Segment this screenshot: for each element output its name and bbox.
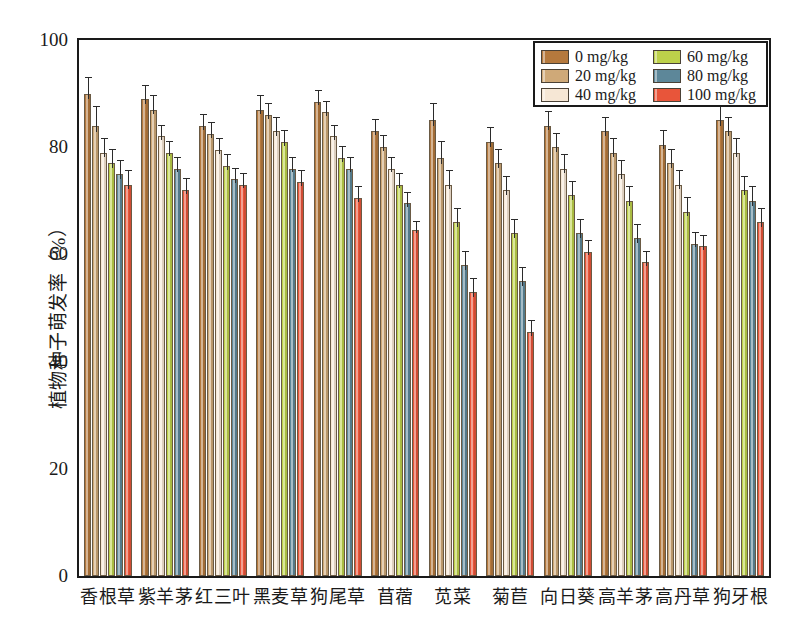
error-bar-cap [495, 149, 502, 150]
bar-shadow [663, 146, 665, 575]
legend-item[interactable]: 100 mg/kg [653, 85, 756, 104]
bar-shadow [523, 282, 525, 575]
bar-group [252, 40, 310, 576]
bar [141, 99, 148, 576]
bar [273, 131, 280, 576]
error-bar-cap [519, 267, 526, 268]
error-bar-cap [446, 170, 453, 171]
bar-shadow [679, 186, 681, 575]
legend-item[interactable]: 20 mg/kg [541, 66, 636, 85]
error-bar [613, 139, 614, 157]
bar-shadow [162, 137, 164, 575]
bar-group [79, 40, 137, 576]
bar [527, 332, 534, 576]
bar-shadow [392, 170, 394, 575]
bar-shadow [235, 180, 237, 575]
bar [461, 265, 468, 576]
bar [634, 238, 641, 576]
bar-shadow [704, 247, 706, 575]
error-bar [318, 91, 319, 105]
error-bar-cap [725, 117, 732, 118]
error-bar-cap [396, 173, 403, 174]
error-bar-cap [380, 135, 387, 136]
bar [158, 136, 165, 576]
bar [396, 185, 403, 576]
legend-item[interactable]: 80 mg/kg [653, 66, 756, 85]
error-bar-cap [758, 208, 765, 209]
y-tick-label: 20 [8, 459, 68, 478]
bar-group [539, 40, 597, 576]
bar [256, 110, 263, 576]
bar-shadow [129, 186, 131, 575]
error-bar [441, 142, 442, 164]
bar-group [482, 40, 540, 576]
bar-shadow [531, 333, 533, 575]
error-bar [736, 139, 737, 157]
bar [576, 233, 583, 576]
legend-item[interactable]: 60 mg/kg [653, 47, 756, 66]
error-bar-cap [487, 127, 494, 128]
bar [667, 163, 674, 576]
bar [150, 110, 157, 576]
bar [231, 179, 238, 576]
bar-group [597, 40, 655, 576]
error-bar-cap [634, 224, 641, 225]
error-bar [433, 104, 434, 126]
error-bar [703, 236, 704, 250]
error-bar-cap [109, 149, 116, 150]
error-bar [375, 120, 376, 134]
bar-shadow [507, 191, 509, 575]
bar [380, 147, 387, 576]
error-bar [276, 118, 277, 136]
bar-shadow [457, 223, 459, 575]
error-bar-cap [150, 95, 157, 96]
error-bar-cap [430, 103, 437, 104]
y-tick-label: 40 [8, 352, 68, 371]
bar [610, 153, 617, 576]
error-bar [580, 220, 581, 238]
bar-shadow [120, 175, 122, 575]
bar-shadow [638, 239, 640, 575]
bar-shadow [359, 199, 361, 575]
error-bar [531, 321, 532, 335]
bar [215, 150, 222, 576]
error-bar [522, 268, 523, 286]
error-bar-cap [503, 176, 510, 177]
bar [469, 292, 476, 576]
bar-shadow [342, 159, 344, 575]
legend-item[interactable]: 0 mg/kg [541, 47, 636, 66]
bar-shadow [646, 263, 648, 575]
error-bar [243, 174, 244, 188]
bar [453, 222, 460, 576]
legend-item[interactable]: 40 mg/kg [541, 85, 636, 104]
error-bar [227, 155, 228, 169]
bar-shadow [580, 234, 582, 575]
error-bar-cap [166, 141, 173, 142]
bar-shadow [178, 170, 180, 575]
error-bar-cap [668, 149, 675, 150]
error-bar [326, 102, 327, 116]
error-bar-cap [749, 186, 756, 187]
error-bar [145, 86, 146, 104]
bar-group [367, 40, 425, 576]
bar-group [424, 40, 482, 576]
bar-shadow [564, 170, 566, 575]
bar-group [194, 40, 252, 576]
error-bar [407, 193, 408, 207]
error-bar [268, 104, 269, 118]
legend-swatch-highlight [655, 70, 657, 82]
error-bar [334, 126, 335, 140]
y-tick-label: 0 [8, 566, 68, 585]
bar-shadow [301, 183, 303, 575]
bar [412, 230, 419, 576]
error-bar [301, 171, 302, 185]
bar [174, 169, 181, 576]
error-bar [498, 150, 499, 168]
error-bar [514, 220, 515, 238]
bar [199, 126, 206, 576]
legend: 0 mg/kg20 mg/kg40 mg/kg 60 mg/kg80 mg/kg… [533, 41, 768, 107]
bar-shadow [572, 196, 574, 575]
error-bar-cap [643, 251, 650, 252]
error-bar-cap [438, 141, 445, 142]
error-bar [605, 118, 606, 136]
